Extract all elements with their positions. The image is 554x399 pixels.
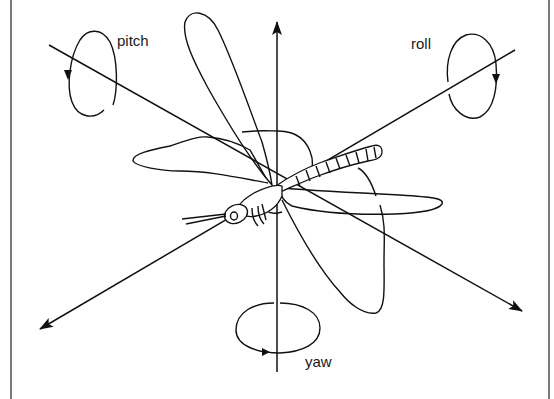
yaw-loop [236,303,320,356]
pitch-axis [49,45,522,311]
roll-label: roll [411,35,431,52]
wing-hindwing-down [282,200,384,313]
pitch-label: pitch [117,32,149,49]
diagram-frame: pitch roll yaw [0,0,554,399]
flight-axes-diagram: pitch roll yaw [0,0,554,399]
dragonfly-wings [133,13,442,313]
pitch-loop [64,31,116,116]
antenna-1 [182,214,226,219]
yaw-label: yaw [305,353,332,370]
wing-hindwing-left [133,137,268,183]
wing-forewing-right [280,188,442,214]
roll-loop [447,34,500,118]
wing-hindwing-right-edge [358,168,376,196]
pitch-loop-arrow-icon [64,70,72,80]
wing-forewing-up [185,13,272,185]
yaw-loop-arrow-icon [262,348,270,356]
roll-loop-arrow-icon [492,74,500,84]
